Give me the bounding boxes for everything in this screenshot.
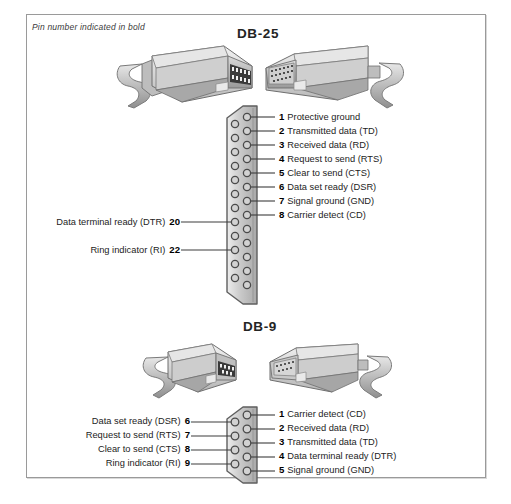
pin-number: 2 xyxy=(279,125,284,136)
diagram-title-db9: DB-9 xyxy=(243,319,277,334)
pin-name: Transmitted data (TD) xyxy=(287,437,378,447)
pin-name: Ring indicator (RI) xyxy=(106,458,181,468)
pin-label-db9-1: 1Carrier detect (CD) xyxy=(279,409,366,419)
pin-label-db25-2: 2Transmitted data (TD) xyxy=(279,126,378,136)
pin-label-db25-1: 1Protective ground xyxy=(279,112,360,122)
diagram-title-db25: DB-25 xyxy=(237,26,279,41)
pin-label-db25-8: 8Carrier detect (CD) xyxy=(279,210,366,220)
db25-male-connector-illustration xyxy=(112,44,264,112)
pin-number: 6 xyxy=(279,181,284,192)
pin-label-db25-22: Ring indicator (RI)22 xyxy=(90,245,180,255)
pin-name: Received data (RD) xyxy=(287,423,369,433)
pin-label-db9-5: 5Signal ground (GND) xyxy=(279,465,374,475)
pin-label-db9-7: Request to send (RTS)7 xyxy=(86,430,190,440)
pin-number: 9 xyxy=(185,457,190,468)
pin-label-db25-5: 5Clear to send (CTS) xyxy=(279,168,370,178)
pin-label-db9-3: 3Transmitted data (TD) xyxy=(279,437,378,447)
pin-name: Ring indicator (RI) xyxy=(90,245,165,255)
pin-name: Clear to send (CTS) xyxy=(287,168,370,178)
pin-name: Data set ready (DSR) xyxy=(287,182,376,192)
pin-name: Protective ground xyxy=(287,112,360,122)
pin-name: Data terminal ready (DTR) xyxy=(287,451,396,461)
pin-number: 3 xyxy=(279,139,284,150)
pin-label-db9-4: 4Data terminal ready (DTR) xyxy=(279,451,396,461)
pin-number: 3 xyxy=(279,436,284,447)
pin-label-db25-3: 3Received data (RD) xyxy=(279,140,369,150)
pin-number: 7 xyxy=(185,429,190,440)
pin-name: Carrier detect (CD) xyxy=(287,409,366,419)
pin-number: 22 xyxy=(169,244,180,255)
pin-label-db9-2: 2Received data (RD) xyxy=(279,423,369,433)
pin-name: Transmitted data (TD) xyxy=(287,126,378,136)
pin-name: Request to send (RTS) xyxy=(86,430,181,440)
pin-number: 7 xyxy=(279,195,284,206)
pin-name: Data terminal ready (DTR) xyxy=(56,217,165,227)
pin-number: 1 xyxy=(279,408,284,419)
pin-name: Signal ground (GND) xyxy=(287,196,374,206)
db25-pin-diagram xyxy=(213,104,277,306)
pin-name: Signal ground (GND) xyxy=(287,465,374,475)
pin-number: 1 xyxy=(279,111,284,122)
pin-number: 5 xyxy=(279,167,284,178)
pin-number: 6 xyxy=(185,415,190,426)
pin-label-db9-6: Data set ready (DSR)6 xyxy=(92,416,190,426)
pin-number: 8 xyxy=(185,443,190,454)
db9-male-connector-illustration xyxy=(140,340,275,400)
pin-name: Request to send (RTS) xyxy=(287,154,382,164)
pin-label-db25-6: 6Data set ready (DSR) xyxy=(279,182,376,192)
db9-female-connector-illustration xyxy=(262,340,397,400)
db25-female-connector-illustration xyxy=(258,44,408,112)
pin-name: Carrier detect (CD) xyxy=(287,210,366,220)
panel-caption: Pin number indicated in bold xyxy=(32,22,145,32)
pin-number: 4 xyxy=(279,153,284,164)
pin-label-db25-20: Data terminal ready (DTR)20 xyxy=(56,217,180,227)
pin-label-db25-7: 7Signal ground (GND) xyxy=(279,196,374,206)
pin-number: 4 xyxy=(279,450,284,461)
db9-pin-diagram xyxy=(213,405,277,487)
pin-name: Data set ready (DSR) xyxy=(92,416,181,426)
pin-name: Clear to send (CTS) xyxy=(98,444,181,454)
pin-label-db9-9: Ring indicator (RI)9 xyxy=(106,458,190,468)
pin-number: 5 xyxy=(279,464,284,475)
pin-label-db25-4: 4Request to send (RTS) xyxy=(279,154,382,164)
pin-number: 20 xyxy=(169,216,180,227)
pin-label-db9-8: Clear to send (CTS)8 xyxy=(98,444,190,454)
pin-number: 2 xyxy=(279,422,284,433)
pin-number: 8 xyxy=(279,209,284,220)
pin-name: Received data (RD) xyxy=(287,140,369,150)
